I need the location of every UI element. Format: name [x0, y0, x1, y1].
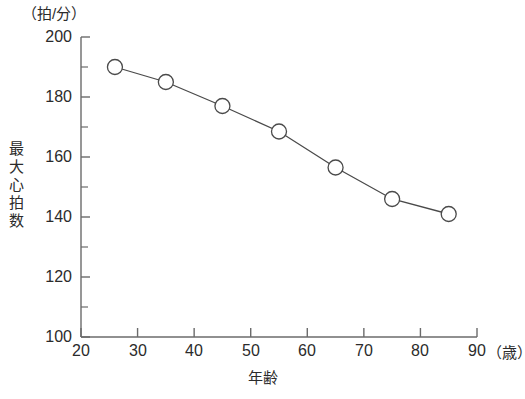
data-point-marker — [107, 60, 122, 75]
data-series-group — [107, 60, 456, 222]
plot-area — [0, 0, 525, 399]
data-point-marker — [272, 124, 287, 139]
data-point-marker — [441, 207, 456, 222]
data-point-marker — [215, 99, 230, 114]
data-point-marker — [158, 75, 173, 90]
data-point-marker — [385, 192, 400, 207]
data-point-marker — [328, 160, 343, 175]
chart-figure: （拍/分） 最 大 心 拍 数 200 180 160 140 120 100 … — [0, 0, 525, 399]
axes-group — [81, 37, 477, 337]
